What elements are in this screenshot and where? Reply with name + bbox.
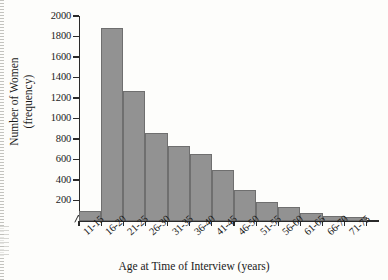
histogram-bar: [168, 146, 190, 221]
histogram-figure: 200400600800100012001400160018002000 11-…: [0, 0, 388, 280]
scan-edge-artifact-lower: [0, 226, 9, 256]
y-axis-tick-label: 1200: [31, 92, 71, 103]
y-axis-tick-label: 800: [31, 133, 71, 144]
y-axis-tick-label: 1600: [31, 51, 71, 62]
x-axis-tick: [78, 221, 79, 226]
y-axis-tick-label: 200: [31, 194, 71, 205]
y-axis-title-line2: (frequency): [22, 42, 36, 162]
y-axis-title-line1: Number of Women: [8, 57, 20, 145]
y-axis-tick-label: 600: [31, 153, 71, 164]
x-axis-title: Age at Time of Interview (years): [0, 260, 388, 272]
bar-series: [79, 16, 379, 221]
y-axis-title: Number of Women (frequency): [8, 42, 35, 162]
y-axis-tick-label: 1400: [31, 71, 71, 82]
histogram-bar: [101, 28, 123, 221]
y-axis-tick-label: 400: [31, 174, 71, 185]
y-axis-tick-label: 2000: [31, 10, 71, 21]
histogram-bar: [123, 91, 145, 221]
histogram-bar: [190, 154, 212, 221]
y-axis-tick-label: 1800: [31, 30, 71, 41]
y-axis-tick-label: 1000: [31, 112, 71, 123]
histogram-bar: [145, 133, 167, 221]
